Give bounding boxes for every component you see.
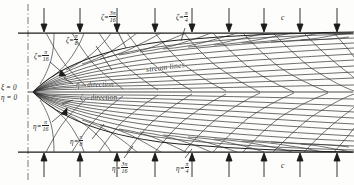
label-xi-zero: ξ = 0 (1, 85, 17, 92)
label-velocity-bottom: c (281, 162, 284, 170)
label-zeta-pi-16: ζ=π16 (34, 49, 50, 62)
label-eta-pi-16: η=π16 (33, 119, 49, 132)
inflow-arrow-top (189, 8, 195, 32)
inflow-arrows-top (41, 8, 340, 32)
leader-zeta-pi-16 (50, 62, 66, 76)
label-eta-pi-8: η=π8 (70, 134, 83, 147)
inflow-arrow-bottom (226, 153, 232, 177)
coordinate-net-drawing (0, 0, 354, 185)
inflow-arrow-bottom (334, 153, 340, 177)
figure-canvas: ξ = 0 η = 0 ζ=π16 ζ=π8 ζ=3π16 ζ=π4 η – d… (0, 0, 354, 185)
inflow-arrow-top (77, 8, 83, 32)
inflow-arrow-bottom (189, 153, 195, 177)
label-eta-3pi-16: η=3π16 (112, 161, 128, 174)
inflow-arrow-top (41, 8, 47, 32)
inflow-arrow-top (297, 8, 303, 32)
inflow-arrow-top (226, 8, 232, 32)
label-velocity-top: c (281, 14, 284, 22)
inflow-arrow-top (152, 8, 158, 32)
inflow-arrow-bottom (41, 153, 47, 177)
inflow-arrow-bottom (261, 153, 267, 177)
label-zeta-3pi-16: ζ=3π16 (101, 10, 117, 23)
inflow-arrows-bottom (41, 153, 340, 177)
label-zeta-pi-4: ζ=π4 (176, 10, 189, 23)
inflow-arrow-bottom (297, 153, 303, 177)
label-zeta-direction: ζ – direction (80, 95, 117, 102)
label-eta-pi-4: η=π4 (176, 161, 189, 174)
inflow-arrow-bottom (77, 153, 83, 177)
label-eta-zero: η = 0 (1, 95, 17, 102)
label-zeta-pi-8: ζ=π8 (66, 33, 79, 46)
inflow-arrow-bottom (152, 153, 158, 177)
zeta-constant-family-lower (40, 100, 350, 152)
inflow-arrow-top (261, 8, 267, 32)
inflow-arrow-top (334, 8, 340, 32)
label-eta-direction: η – direction (76, 82, 114, 89)
